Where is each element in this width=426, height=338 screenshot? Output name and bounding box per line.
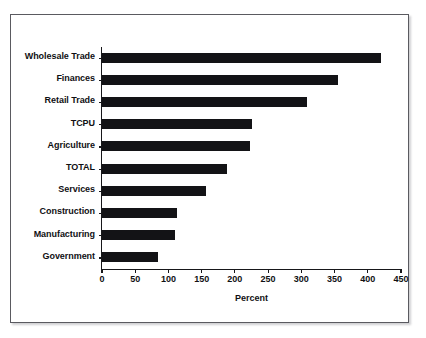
bar xyxy=(102,164,227,174)
x-axis-tick-label: 450 xyxy=(393,274,408,284)
bar xyxy=(102,252,158,262)
x-axis-tick xyxy=(168,269,169,273)
category-label: Services xyxy=(58,184,95,194)
bar xyxy=(102,230,175,240)
x-axis-tick xyxy=(201,269,202,273)
x-axis-tick xyxy=(334,269,335,273)
x-axis-tick-label: 200 xyxy=(227,274,242,284)
category-label: Retail Trade xyxy=(45,95,95,105)
bar-row: Wholesale Trade xyxy=(102,47,401,69)
category-label: Manufacturing xyxy=(34,229,95,239)
x-axis-tick-label: 150 xyxy=(194,274,209,284)
x-axis-tick xyxy=(135,269,136,273)
bar-row: TOTAL xyxy=(102,158,401,180)
bar xyxy=(102,208,177,218)
x-axis-tick xyxy=(367,269,368,273)
bar-row: Manufacturing xyxy=(102,225,401,247)
x-axis-tick xyxy=(400,269,401,273)
x-axis-tick-label: 250 xyxy=(261,274,276,284)
bar-row: Finances xyxy=(102,69,401,91)
x-axis-tick-label: 0 xyxy=(99,274,104,284)
x-axis-tick-label: 350 xyxy=(327,274,342,284)
category-label: Agriculture xyxy=(48,140,95,150)
x-axis-tick xyxy=(268,269,269,273)
category-label: TCPU xyxy=(71,118,95,128)
bar-row: Services xyxy=(102,180,401,202)
x-axis-tick xyxy=(301,269,302,273)
x-axis-tick xyxy=(101,269,102,273)
bar-row: Retail Trade xyxy=(102,91,401,113)
x-axis-tick-label: 300 xyxy=(294,274,309,284)
x-axis-tick-label: 50 xyxy=(130,274,140,284)
x-axis-tick-label: 400 xyxy=(360,274,375,284)
plot-area: Wholesale TradeFinancesRetail TradeTCPUA… xyxy=(102,47,401,269)
category-label: Wholesale Trade xyxy=(25,51,95,61)
bar xyxy=(102,53,381,63)
x-axis-tick xyxy=(234,269,235,273)
bar xyxy=(102,75,338,85)
category-label: Construction xyxy=(40,206,95,216)
bar xyxy=(102,97,307,107)
category-label: Finances xyxy=(56,73,95,83)
bar xyxy=(102,119,252,129)
x-axis-title: Percent xyxy=(235,293,268,303)
bar-row: Construction xyxy=(102,202,401,224)
x-axis-tick-label: 100 xyxy=(161,274,176,284)
category-label: Government xyxy=(42,251,95,261)
bar-row: TCPU xyxy=(102,114,401,136)
category-label: TOTAL xyxy=(66,162,95,172)
bar xyxy=(102,141,250,151)
bar xyxy=(102,186,206,196)
bar-row: Government xyxy=(102,247,401,269)
chart-figure-frame: Wholesale TradeFinancesRetail TradeTCPUA… xyxy=(10,14,409,323)
bar-row: Agriculture xyxy=(102,136,401,158)
